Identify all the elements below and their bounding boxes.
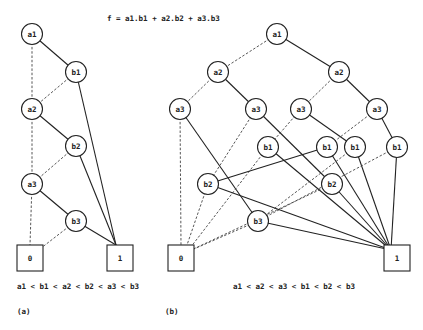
svg-text:b2: b2 [71,142,80,151]
svg-text:a1: a1 [272,30,282,39]
variable-node-b2B: b2 [322,174,343,195]
svg-text:1: 1 [118,254,123,263]
svg-text:a2: a2 [334,68,343,77]
diagram-b-nodes: a1a2a2a3a3a3a3b1b1b1b1b2b2b301 [168,24,410,272]
variable-node-b1A: b1 [258,137,279,158]
variable-node-a1: a1 [22,24,43,45]
diagram-b-ordering: a1 < a2 < a3 < b1 < b2 < b3 [233,282,355,291]
variable-node-a3: a3 [22,174,43,195]
svg-text:a3: a3 [296,105,306,114]
svg-text:a2: a2 [213,68,222,77]
diagram-b: a1a2a2a3a3a3a3b1b1b1b1b2b2b301 [168,24,410,272]
variable-node-a3D: a3 [367,99,388,120]
svg-text:b1: b1 [71,68,81,77]
diagram-a: a1b1a2b2a3b301 [17,24,133,272]
diagram-a-nodes: a1b1a2b2a3b301 [17,24,133,272]
svg-text:b1: b1 [263,143,273,152]
variable-node-a2L: a2 [208,62,229,83]
terminal-node-t0: 0 [168,245,194,271]
variable-node-b3: b3 [248,211,269,232]
terminal-node-t1: 1 [107,245,133,271]
svg-text:b1: b1 [322,143,332,152]
variable-node-b3: b3 [66,211,87,232]
variable-node-b1: b1 [66,62,87,83]
bdd-diagrams: a1b1a2b2a3b301 a1a2a2a3a3a3a3b1b1b1b1b2b… [0,0,423,330]
diagram-b-caption: (b) [165,307,179,316]
variable-node-b2A: b2 [198,174,219,195]
variable-node-b1B: b1 [317,137,338,158]
terminal-node-t1: 1 [384,245,410,271]
svg-text:b3: b3 [71,217,81,226]
high-edge-b2B-t1 [332,184,391,250]
variable-node-b2: b2 [66,136,87,157]
high-edge-b2A-t1 [208,184,391,250]
svg-text:a2: a2 [27,105,36,114]
high-edge-b1B-t1 [327,147,391,250]
diagram-a-ordering: a1 < b1 < a2 < b2 < a3 < b3 [17,282,139,291]
variable-node-a2: a2 [22,99,43,120]
svg-text:a3: a3 [175,105,185,114]
svg-text:a3: a3 [251,105,261,114]
variable-node-a3A: a3 [170,99,191,120]
terminal-node-t0: 0 [17,245,43,271]
svg-text:a3: a3 [27,180,37,189]
diagram-a-caption: (a) [17,307,31,316]
svg-text:b2: b2 [327,180,336,189]
svg-text:1: 1 [395,254,400,263]
svg-text:b1: b1 [350,143,360,152]
low-edge-b3-t0 [187,221,258,252]
variable-node-b1D: b1 [387,137,408,158]
svg-text:b1: b1 [392,143,402,152]
variable-node-a2R: a2 [329,62,350,83]
svg-text:a1: a1 [27,30,37,39]
high-edge-a3A-b3 [180,109,258,221]
low-edge-b1A-t0 [187,147,268,252]
variable-node-a3C: a3 [291,99,312,120]
svg-text:b2: b2 [203,180,212,189]
variable-node-b1C: b1 [345,137,366,158]
low-edge-a3A-t0 [180,109,181,245]
svg-text:0: 0 [28,254,33,263]
svg-text:b3: b3 [253,217,263,226]
high-edge-b1D-t1 [391,147,397,250]
svg-text:0: 0 [179,254,184,263]
formula-label: f = a1.b1 + a2.b2 + a3.b3 [107,14,220,23]
variable-node-a1: a1 [267,24,288,45]
svg-text:a3: a3 [372,105,382,114]
low-edge-a3B-b2A [208,109,256,184]
variable-node-a3B: a3 [246,99,267,120]
high-edge-b3-t1 [258,221,391,250]
